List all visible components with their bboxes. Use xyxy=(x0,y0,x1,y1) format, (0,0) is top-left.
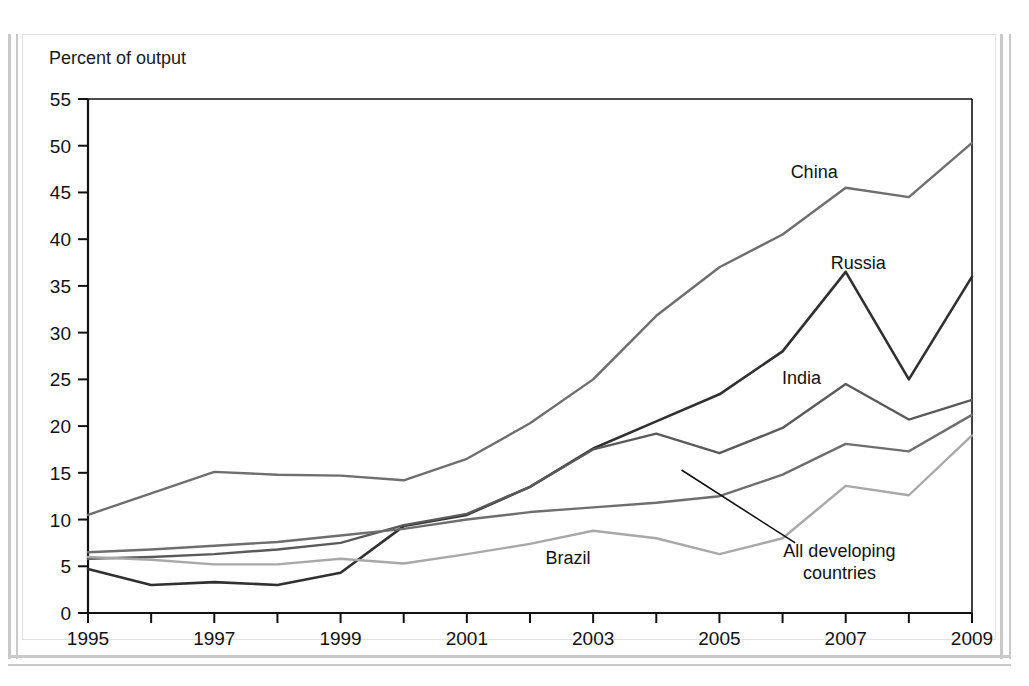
x-tick-label: 2007 xyxy=(825,628,867,649)
series-label-russia: Russia xyxy=(831,253,887,273)
y-tick-label: 25 xyxy=(50,369,71,390)
y-tick-label: 20 xyxy=(50,416,71,437)
x-tick-label: 1995 xyxy=(67,628,109,649)
series-line-russia xyxy=(88,272,972,585)
series-label-china: China xyxy=(791,162,839,182)
x-tick-label: 2001 xyxy=(446,628,488,649)
figure-frame: Percent of output 0510152025303540455055… xyxy=(0,0,1029,686)
y-tick-label: 30 xyxy=(50,323,71,344)
y-tick-label: 5 xyxy=(60,556,71,577)
y-tick-label: 0 xyxy=(60,603,71,624)
x-tick-label: 1997 xyxy=(193,628,235,649)
y-tick-label: 45 xyxy=(50,182,71,203)
y-tick-label: 10 xyxy=(50,510,71,531)
series-label-india: India xyxy=(782,368,822,388)
series-label-all-developing-countries: All developingcountries xyxy=(783,541,895,583)
y-tick-label: 50 xyxy=(50,136,71,157)
line-chart: 0510152025303540455055199519971999200120… xyxy=(0,0,1029,686)
x-tick-label: 2003 xyxy=(572,628,614,649)
series-line-all-developing-countries xyxy=(88,415,972,552)
x-tick-label: 2009 xyxy=(951,628,993,649)
series-label-brazil: Brazil xyxy=(545,548,590,568)
y-tick-label: 15 xyxy=(50,463,71,484)
x-tick-label: 1999 xyxy=(319,628,361,649)
chart-svg: 0510152025303540455055199519971999200120… xyxy=(0,0,1029,686)
y-tick-label: 55 xyxy=(50,89,71,110)
leader-line-all-developing-countries xyxy=(682,470,796,543)
y-tick-label: 40 xyxy=(50,229,71,250)
y-tick-label: 35 xyxy=(50,276,71,297)
series-line-china xyxy=(88,143,972,515)
x-tick-label: 2005 xyxy=(698,628,740,649)
